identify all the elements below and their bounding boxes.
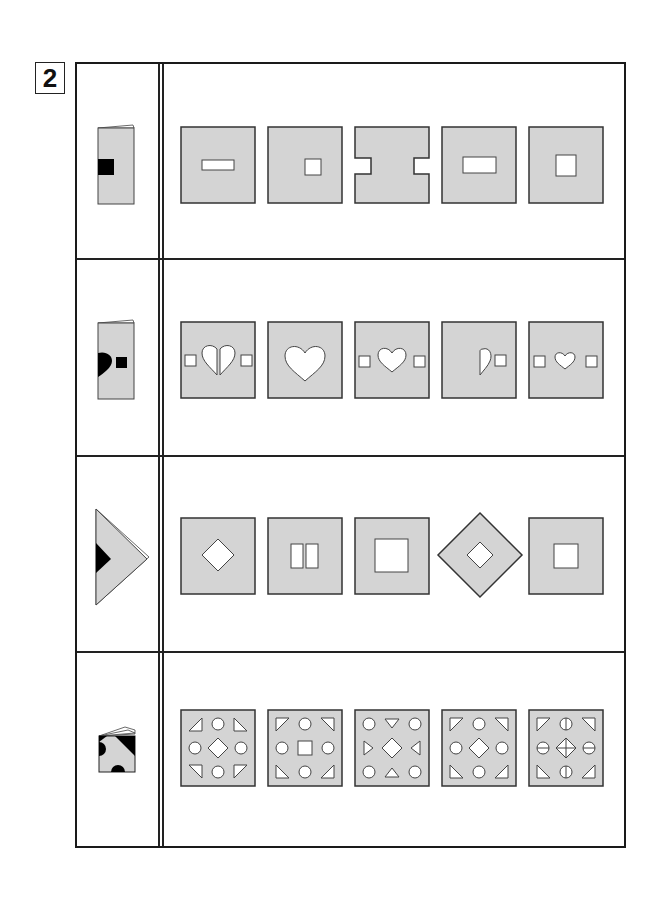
puzzle-row-2 — [77, 260, 624, 455]
answer-option-5[interactable] — [528, 517, 606, 597]
puzzle-row-4 — [77, 653, 624, 847]
answer-option-4[interactable] — [441, 321, 519, 401]
answer-option-3[interactable] — [354, 321, 432, 401]
answer-option-1[interactable] — [180, 126, 258, 206]
folded-paper-figure — [96, 122, 138, 208]
answer-option-2[interactable] — [267, 126, 345, 206]
problem-number: 2 — [43, 65, 57, 91]
answer-option-1[interactable] — [180, 709, 258, 789]
puzzle-row-1 — [77, 64, 624, 258]
puzzle-table — [75, 62, 626, 848]
answer-option-2[interactable] — [267, 709, 345, 789]
answer-option-1[interactable] — [180, 517, 258, 597]
answer-option-5[interactable] — [528, 321, 606, 401]
folded-paper-figure — [95, 724, 139, 774]
answer-option-3[interactable] — [354, 709, 432, 789]
answer-option-3[interactable] — [354, 126, 432, 206]
answer-option-5[interactable] — [528, 126, 606, 206]
answer-option-4[interactable] — [436, 511, 524, 601]
answer-option-5[interactable] — [528, 709, 606, 789]
puzzle-row-3 — [77, 457, 624, 651]
folded-paper-figure — [96, 317, 138, 403]
answer-option-1[interactable] — [180, 321, 258, 401]
problem-number-box: 2 — [35, 62, 65, 94]
folded-paper-figure — [91, 507, 151, 607]
answer-option-4[interactable] — [441, 126, 519, 206]
answer-option-4[interactable] — [441, 709, 519, 789]
answer-option-2[interactable] — [267, 517, 345, 597]
answer-option-3[interactable] — [354, 517, 432, 597]
answer-option-2[interactable] — [267, 321, 345, 401]
